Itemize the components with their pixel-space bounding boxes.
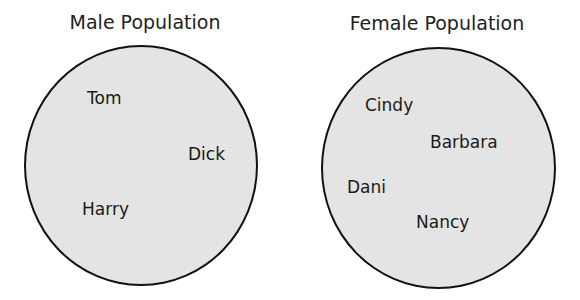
male-population-circle (24, 45, 258, 286)
member-tom: Tom (87, 88, 121, 108)
female-population-title: Female Population (350, 12, 525, 34)
male-population-title: Male Population (70, 11, 221, 33)
member-barbara: Barbara (430, 132, 498, 152)
member-dick: Dick (188, 144, 225, 164)
member-cindy: Cindy (365, 95, 413, 115)
member-dani: Dani (347, 177, 386, 197)
female-population-circle (321, 47, 556, 289)
member-nancy: Nancy (416, 212, 469, 232)
member-harry: Harry (82, 199, 129, 219)
